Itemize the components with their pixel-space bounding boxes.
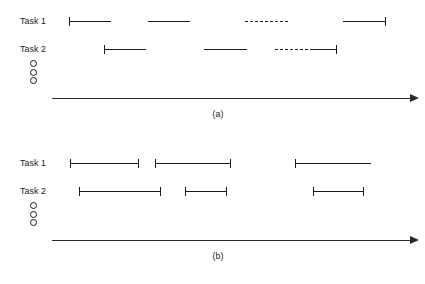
segment-start-tick — [185, 187, 186, 196]
segment-start-tick — [69, 17, 70, 26]
task-segment — [185, 191, 226, 192]
time-axis-arrowhead-icon-a — [410, 94, 419, 102]
task-segment — [295, 163, 371, 164]
segment-end-tick — [385, 17, 386, 26]
task-segment — [104, 49, 146, 50]
task-segment — [204, 49, 247, 50]
segment-start-tick — [79, 187, 80, 196]
row-label-task1-a: Task 1 — [20, 15, 46, 26]
segment-start-tick — [104, 45, 105, 54]
segment-start-tick — [70, 159, 71, 168]
timeline-panel-b: Task 1 Task 2 (b) — [0, 142, 425, 284]
segment-start-tick — [295, 159, 296, 168]
task-segment — [275, 49, 313, 50]
task-segment — [70, 163, 138, 164]
task-segment — [343, 21, 385, 22]
segment-start-tick — [313, 187, 314, 196]
time-axis-arrowhead-icon-b — [410, 236, 419, 244]
timeline-panel-a: Task 1 Task 2 (a) — [0, 0, 425, 142]
ellipsis-circle-icon — [30, 202, 37, 209]
segment-end-tick — [138, 159, 139, 168]
task-segment — [148, 21, 190, 22]
task-segment — [79, 191, 160, 192]
task-segment — [313, 191, 363, 192]
segment-end-tick — [336, 45, 337, 54]
panel-caption-b: (b) — [199, 250, 236, 261]
ellipsis-circle-icon — [30, 211, 37, 218]
segment-start-tick — [155, 159, 156, 168]
vertical-ellipsis-a — [30, 60, 37, 84]
time-axis-a — [52, 98, 410, 99]
segment-end-tick — [363, 187, 364, 196]
task-segment — [155, 163, 230, 164]
ellipsis-circle-icon — [30, 69, 37, 76]
row-label-task2-b: Task 2 — [20, 185, 46, 196]
panel-caption-a: (a) — [199, 108, 236, 119]
ellipsis-circle-icon — [30, 219, 37, 226]
row-label-task1-b: Task 1 — [20, 157, 46, 168]
vertical-ellipsis-b — [30, 202, 37, 226]
time-axis-b — [52, 240, 410, 241]
segment-end-tick — [160, 187, 161, 196]
task-segment — [313, 49, 336, 50]
segment-end-tick — [230, 159, 231, 168]
ellipsis-circle-icon — [30, 60, 37, 67]
task-segment — [245, 21, 288, 22]
ellipsis-circle-icon — [30, 77, 37, 84]
row-label-task2-a: Task 2 — [20, 43, 46, 54]
segment-end-tick — [226, 187, 227, 196]
task-segment — [69, 21, 111, 22]
